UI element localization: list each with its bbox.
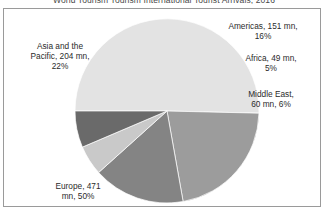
chart-plot-frame: Asia and the Pacific, 204 mn, 22% Americ… bbox=[3, 8, 321, 207]
pie-label-europe: Europe, 471 mn, 50% bbox=[26, 181, 130, 201]
pie-label-africa: Africa, 49 mn, 5% bbox=[218, 53, 321, 73]
pie-label-americas: Americas, 151 mn, 16% bbox=[202, 21, 321, 41]
chart-title: World Tourism Tourism International Tour… bbox=[0, 0, 328, 4]
pie-label-asia-and-the-pacific: Asia and the Pacific, 204 mn, 22% bbox=[6, 41, 114, 72]
pie-label-middle-east: Middle East, 60 mn, 6% bbox=[216, 89, 321, 109]
